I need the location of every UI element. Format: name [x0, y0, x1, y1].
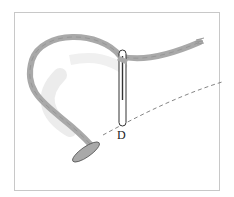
figure-label: D	[117, 128, 126, 143]
needle-thread-illustration	[0, 0, 234, 197]
